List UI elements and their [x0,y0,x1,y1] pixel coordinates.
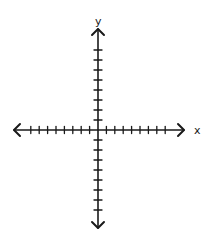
y-axis [92,29,104,228]
y-axis-label: y [95,15,102,28]
x-axis-label: x [194,124,201,137]
coordinate-plane: x y [0,0,207,246]
